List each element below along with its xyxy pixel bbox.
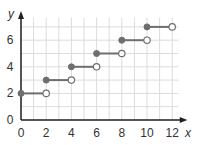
svg-text:4: 4 [7, 60, 14, 74]
step-function-chart: 0246810120246 x y [0, 0, 202, 145]
svg-text:2: 2 [43, 126, 50, 140]
svg-text:8: 8 [118, 126, 125, 140]
svg-text:2: 2 [7, 86, 14, 100]
svg-text:6: 6 [93, 126, 100, 140]
tick-labels: 0246810120246 [7, 33, 180, 140]
svg-text:10: 10 [140, 126, 154, 140]
svg-text:0: 0 [18, 126, 25, 140]
x-axis-label: x [184, 126, 192, 140]
svg-text:6: 6 [7, 33, 14, 47]
svg-text:4: 4 [68, 126, 75, 140]
svg-text:0: 0 [7, 113, 14, 127]
y-axis-label: y [7, 7, 15, 21]
svg-text:12: 12 [166, 126, 180, 140]
